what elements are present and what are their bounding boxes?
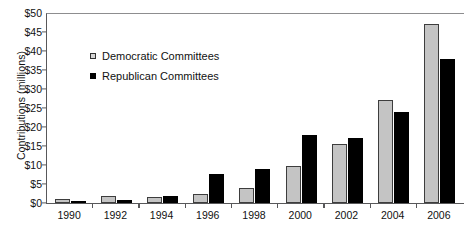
bar-group — [324, 13, 370, 203]
bar-democratic-1990 — [55, 199, 70, 203]
bar-republican-2000 — [302, 135, 317, 203]
bar-democratic-2002 — [332, 144, 347, 203]
bar-republican-1990 — [71, 201, 86, 203]
x-axis-tick-mark — [416, 204, 417, 208]
bar-group — [232, 13, 278, 203]
bar-republican-2006 — [440, 59, 455, 203]
y-axis-tick-label: $25 — [24, 102, 42, 114]
bars-layer — [47, 13, 463, 203]
x-axis-tick-label: 2002 — [335, 209, 358, 221]
x-axis-tick-label: 1998 — [242, 209, 265, 221]
bar-republican-1998 — [255, 169, 270, 203]
y-axis-tick-label: $5 — [30, 178, 42, 190]
y-axis-tick-label: $10 — [24, 159, 42, 171]
y-axis-tick-label: $40 — [24, 45, 42, 57]
y-axis-tick-labels: $0$5$10$15$20$25$30$35$40$45$50 — [0, 0, 42, 230]
x-axis-tick-labels: 199019921994199619982000200220042006 — [46, 209, 464, 227]
x-axis-tick-label: 1996 — [196, 209, 219, 221]
x-axis-tick-mark — [323, 204, 324, 208]
bar-group — [93, 13, 139, 203]
bar-democratic-1992 — [101, 196, 116, 203]
x-axis-tick-label: 2004 — [381, 209, 404, 221]
bar-democratic-1998 — [239, 188, 254, 203]
x-axis-tick-mark — [138, 204, 139, 208]
bar-republican-2004 — [394, 112, 409, 203]
bar-democratic-1996 — [193, 194, 208, 204]
legend-label-democratic: Democratic Committees — [102, 50, 219, 62]
bar-group — [417, 13, 463, 203]
y-axis-tick-label: $45 — [24, 26, 42, 38]
bar-democratic-1994 — [147, 197, 162, 203]
bar-group — [371, 13, 417, 203]
legend-item-democratic: Democratic Committees — [90, 47, 290, 64]
legend-label-republican: Republican Committees — [102, 70, 219, 82]
y-axis-tick-label: $15 — [24, 140, 42, 152]
x-axis-tick-label: 1994 — [150, 209, 173, 221]
x-axis-tick-mark — [370, 204, 371, 208]
legend: Democratic Committees Republican Committ… — [90, 47, 290, 87]
bar-group — [139, 13, 185, 203]
y-axis-tick-label: $20 — [24, 121, 42, 133]
bar-chart: Contributions (millions) $0$5$10$15$20$2… — [0, 0, 474, 230]
bar-democratic-2004 — [378, 100, 393, 203]
bar-democratic-2006 — [424, 24, 439, 203]
x-axis-tick-mark — [92, 204, 93, 208]
x-axis-tick-mark — [277, 204, 278, 208]
y-axis-tick-label: $50 — [24, 7, 42, 19]
bar-group — [186, 13, 232, 203]
bar-republican-2002 — [348, 138, 363, 203]
bar-group — [278, 13, 324, 203]
y-axis-tick-label: $35 — [24, 64, 42, 76]
x-axis-tick-label: 2006 — [427, 209, 450, 221]
y-axis-tick-label: $30 — [24, 83, 42, 95]
x-axis-tick-mark — [231, 204, 232, 208]
y-axis-tick-label: $0 — [30, 197, 42, 209]
x-axis-tick-mark — [185, 204, 186, 208]
bar-group — [47, 13, 93, 203]
x-axis-tick-label: 1990 — [57, 209, 80, 221]
legend-swatch-democratic-icon — [90, 53, 96, 59]
x-axis-tick-label: 1992 — [104, 209, 127, 221]
bar-republican-1996 — [209, 174, 224, 203]
legend-swatch-republican-icon — [90, 73, 96, 79]
x-axis-tick-label: 2000 — [289, 209, 312, 221]
bar-republican-1994 — [163, 196, 178, 203]
legend-item-republican: Republican Committees — [90, 67, 290, 84]
bar-democratic-2000 — [286, 166, 301, 203]
bar-republican-1992 — [117, 200, 132, 203]
